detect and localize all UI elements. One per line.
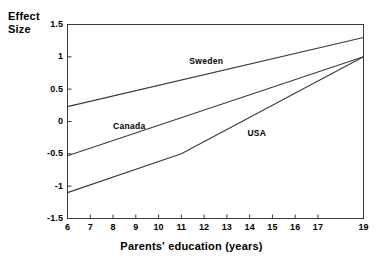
x-axis-tick-labels: 6789101112131415161719 (0, 0, 383, 267)
x-axis-tick-label: 7 (80, 222, 100, 232)
x-axis-tick-label: 8 (103, 222, 123, 232)
x-axis-tick-label: 6 (58, 222, 78, 232)
x-axis-tick-label: 17 (308, 222, 328, 232)
x-axis-tick-label: 15 (262, 222, 282, 232)
x-axis-tick-label: 12 (194, 222, 214, 232)
series-label-canada: Canada (113, 121, 146, 131)
x-axis-tick-label: 16 (285, 222, 305, 232)
chart-figure: Effect Size 1.510.50-0.5-1-1.5 678910111… (0, 0, 383, 267)
x-axis-tick-label: 13 (217, 222, 237, 232)
x-axis-tick-label: 11 (171, 222, 191, 232)
x-axis-tick-label: 9 (126, 222, 146, 232)
series-label-sweden: Sweden (189, 56, 223, 66)
x-axis-tick-label: 10 (149, 222, 169, 232)
x-axis-tick-label: 19 (354, 222, 374, 232)
x-axis-tick-label: 14 (240, 222, 260, 232)
x-axis-title: Parents' education (years) (0, 240, 383, 252)
series-label-usa: USA (247, 128, 266, 138)
